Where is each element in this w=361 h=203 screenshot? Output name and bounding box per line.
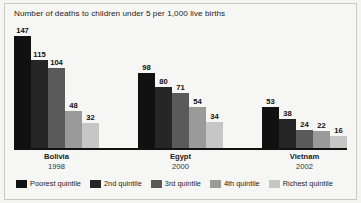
chart-figure: Number of deaths to children under 5 per… [0, 0, 361, 203]
bar-rect[interactable] [48, 68, 65, 148]
category-name: Bolivia [17, 152, 97, 162]
legend-label: 2nd quintile [104, 179, 142, 188]
legend-swatch-icon [16, 180, 27, 188]
bar-rect[interactable] [14, 36, 31, 148]
category-label-vietnam: Vietnam2002 [265, 152, 345, 172]
bar-value-label: 38 [283, 109, 291, 118]
bar-vietnam-2[interactable]: 38 [279, 26, 296, 148]
bar-rect[interactable] [296, 130, 313, 148]
bar-group-egypt: 9880715434 [138, 26, 223, 148]
bar-rect[interactable] [82, 123, 99, 148]
bar-egypt-3[interactable]: 71 [172, 26, 189, 148]
category-label-bolivia: Bolivia1998 [17, 152, 97, 172]
bar-group-bolivia: 1471151044832 [14, 26, 99, 148]
bar-bolivia-1[interactable]: 147 [14, 26, 31, 148]
bar-value-label: 48 [69, 101, 77, 110]
bar-value-label: 80 [159, 77, 167, 86]
bar-value-label: 34 [210, 112, 218, 121]
legend-item-3[interactable]: 3rd quintile [151, 179, 201, 188]
bar-value-label: 24 [300, 120, 308, 129]
bar-value-label: 22 [317, 121, 325, 130]
bar-rect[interactable] [279, 119, 296, 148]
legend-label: Richest quintile [283, 179, 333, 188]
legend-label: 3rd quintile [165, 179, 201, 188]
bar-vietnam-3[interactable]: 24 [296, 26, 313, 148]
legend-item-4[interactable]: 4th quintile [210, 179, 260, 188]
plot-area: 147115104483298807154345338242216 [14, 26, 347, 148]
legend-item-2[interactable]: 2nd quintile [90, 179, 142, 188]
bar-egypt-5[interactable]: 34 [206, 26, 223, 148]
bar-rect[interactable] [330, 136, 347, 148]
bar-value-label: 54 [193, 97, 201, 106]
bar-bolivia-3[interactable]: 104 [48, 26, 65, 148]
bar-rect[interactable] [206, 122, 223, 148]
bar-value-label: 147 [16, 26, 29, 35]
bar-vietnam-4[interactable]: 22 [313, 26, 330, 148]
bar-rect[interactable] [155, 87, 172, 148]
bar-rect[interactable] [138, 73, 155, 148]
bar-rect[interactable] [172, 93, 189, 148]
category-year: 1998 [17, 162, 97, 172]
bar-value-label: 104 [50, 58, 63, 67]
category-year: 2002 [265, 162, 345, 172]
bar-rect[interactable] [313, 131, 330, 148]
bar-value-label: 16 [334, 126, 342, 135]
legend-swatch-icon [269, 180, 280, 188]
bar-value-label: 115 [33, 50, 45, 59]
legend-swatch-icon [90, 180, 101, 188]
bar-rect[interactable] [31, 60, 48, 148]
bar-value-label: 53 [266, 97, 274, 106]
bar-rect[interactable] [189, 107, 206, 149]
bar-vietnam-1[interactable]: 53 [262, 26, 279, 148]
x-axis-line [14, 148, 347, 150]
legend-swatch-icon [151, 180, 162, 188]
bar-value-label: 98 [142, 63, 150, 72]
legend-swatch-icon [210, 180, 221, 188]
legend-item-1[interactable]: Poorest quintile [16, 179, 81, 188]
category-label-egypt: Egypt2000 [141, 152, 221, 172]
legend-label: 4th quintile [224, 179, 260, 188]
bar-rect[interactable] [262, 107, 279, 148]
chart-legend: Poorest quintile2nd quintile3rd quintile… [16, 179, 342, 188]
bar-egypt-1[interactable]: 98 [138, 26, 155, 148]
bar-egypt-4[interactable]: 54 [189, 26, 206, 148]
bar-rect[interactable] [65, 111, 82, 148]
bar-vietnam-5[interactable]: 16 [330, 26, 347, 148]
legend-item-5[interactable]: Richest quintile [269, 179, 333, 188]
category-name: Egypt [141, 152, 221, 162]
chart-title: Number of deaths to children under 5 per… [14, 9, 225, 18]
bar-value-label: 32 [86, 113, 94, 122]
bar-bolivia-4[interactable]: 48 [65, 26, 82, 148]
bar-egypt-2[interactable]: 80 [155, 26, 172, 148]
category-year: 2000 [141, 162, 221, 172]
bar-bolivia-5[interactable]: 32 [82, 26, 99, 148]
bar-group-vietnam: 5338242216 [262, 26, 347, 148]
legend-label: Poorest quintile [30, 179, 81, 188]
bar-bolivia-2[interactable]: 115 [31, 26, 48, 148]
bar-value-label: 71 [176, 83, 184, 92]
category-name: Vietnam [265, 152, 345, 162]
bar-groups: 147115104483298807154345338242216 [14, 26, 347, 148]
